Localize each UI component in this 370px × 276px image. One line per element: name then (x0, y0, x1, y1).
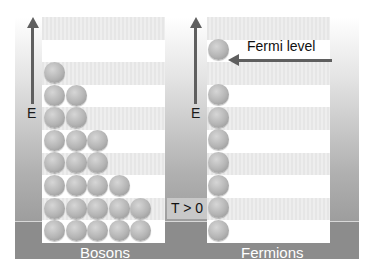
boson-particle (66, 220, 87, 241)
fermion-particle (208, 129, 229, 150)
boson-particle (109, 198, 130, 219)
energy-band (207, 62, 330, 85)
fermion-particle (208, 152, 229, 173)
temperature-label: T > 0 (167, 198, 207, 219)
fermion-particle (208, 107, 229, 128)
boson-particle (44, 198, 65, 219)
boson-particle (66, 107, 87, 128)
boson-particle (66, 198, 87, 219)
arrow-up-icon (27, 17, 39, 28)
boson-particle (44, 130, 65, 151)
boson-particle (87, 198, 108, 219)
bosons-panel (42, 17, 165, 243)
energy-label-fermions: E (191, 105, 200, 121)
boson-particle (87, 220, 108, 241)
boson-particle (44, 220, 65, 241)
energy-axis-arrow-fermions (194, 26, 197, 104)
boson-particle (130, 198, 151, 219)
arrow-left-icon (228, 54, 239, 66)
energy-label-bosons: E (27, 105, 36, 121)
boson-particle (109, 175, 130, 196)
bosons-caption: Bosons (80, 244, 130, 261)
fermion-particle (208, 175, 229, 196)
boson-particle (66, 85, 87, 106)
arrow-up-icon (190, 17, 202, 28)
fermi-level-label: Fermi level (247, 38, 315, 54)
boson-particle (130, 220, 151, 241)
boson-particle (66, 152, 87, 173)
boson-particle (109, 220, 130, 241)
boson-particle (87, 175, 108, 196)
boson-particle (44, 85, 65, 106)
fermion-particle (208, 220, 229, 241)
energy-axis-arrow-bosons (31, 26, 34, 104)
boson-particle (44, 175, 65, 196)
boson-particle (66, 130, 87, 151)
boson-particle (87, 130, 108, 151)
boson-particle (44, 62, 65, 83)
boson-particle (66, 175, 87, 196)
fermi-level-arrow (236, 59, 332, 62)
energy-band (42, 17, 165, 40)
fermion-particle (208, 84, 229, 105)
fermions-caption: Fermions (241, 244, 304, 261)
fermion-particle (208, 39, 229, 60)
energy-band (207, 17, 330, 40)
